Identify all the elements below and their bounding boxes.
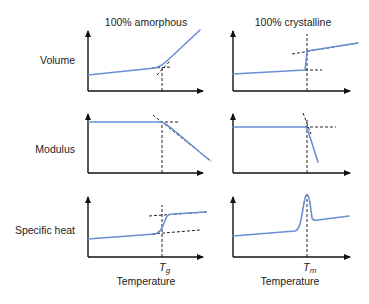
column-header-amorphous: 100% amorphous bbox=[105, 16, 187, 28]
x-axis-label-amorphous: Temperature bbox=[117, 275, 176, 287]
panel-modulus-amorphous bbox=[88, 114, 212, 173]
row-label-volume: Volume bbox=[40, 54, 75, 66]
modulus-curve-amorphous bbox=[88, 122, 208, 159]
tg-label: Tg bbox=[159, 261, 171, 275]
modulus-curve-crystalline bbox=[233, 127, 318, 162]
specific-heat-curve-crystalline-right bbox=[310, 203, 349, 220]
volume-curve-crystalline bbox=[233, 43, 358, 74]
volume-curve-amorphous bbox=[88, 30, 200, 75]
x-axis-label-crystalline: Temperature bbox=[261, 275, 320, 287]
panel-specific-heat-crystalline bbox=[233, 192, 350, 257]
column-header-crystalline: 100% crystalline bbox=[255, 16, 332, 28]
panel-volume-amorphous bbox=[88, 30, 203, 91]
row-label-specific-heat: Specific heat bbox=[15, 224, 75, 236]
panel-specific-heat-amorphous bbox=[88, 197, 207, 257]
row-label-modulus: Modulus bbox=[35, 143, 75, 155]
thermal-transition-diagram: 100% amorphous 100% crystalline Volume M… bbox=[0, 0, 369, 304]
tm-label: Tm bbox=[303, 261, 317, 275]
specific-heat-curve-amorphous bbox=[88, 212, 206, 239]
specific-heat-curve-crystalline-left bbox=[233, 203, 304, 236]
panel-modulus-crystalline bbox=[233, 113, 350, 173]
panel-volume-crystalline bbox=[233, 31, 358, 91]
